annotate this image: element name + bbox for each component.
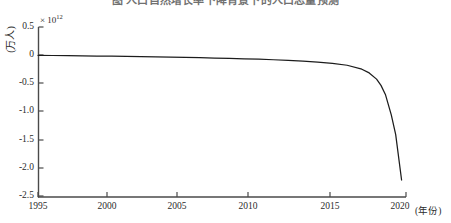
plot-canvas	[0, 0, 451, 223]
y-tick-marks	[39, 27, 44, 196]
chart-figure: × 1012 (万人) 0.5 0 -0.5 -1.0 -1.5 -2.0 -2…	[0, 0, 451, 223]
population-trend-line	[38, 55, 402, 180]
x-tick-marks	[38, 192, 406, 197]
